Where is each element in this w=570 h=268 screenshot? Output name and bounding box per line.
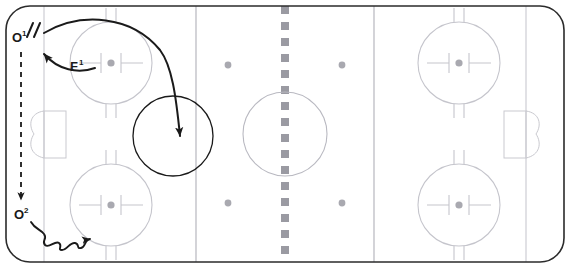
neutral-dot-bottom-left <box>225 200 232 207</box>
hockey-rink-diagram: O 1 O 2 F 1 <box>0 0 570 268</box>
player-f1-superscript: 1 <box>79 58 84 67</box>
neutral-dot-top-right <box>339 62 346 69</box>
rink-canvas: O 1 O 2 F 1 <box>0 0 570 268</box>
neutral-dot-top-left <box>225 62 232 69</box>
player-o1-letter: O <box>12 30 22 45</box>
player-o2-letter: O <box>14 207 24 222</box>
neutral-dot-bottom-right <box>339 200 346 207</box>
player-f1-letter: F <box>70 59 78 74</box>
player-o2-superscript: 2 <box>24 206 29 215</box>
